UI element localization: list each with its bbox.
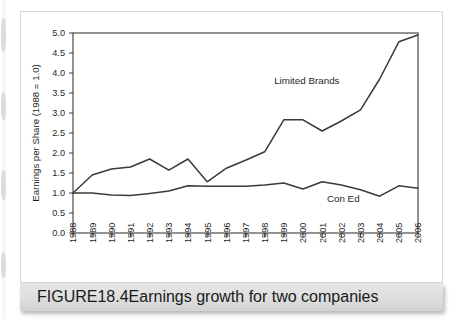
y-tick-label: 3.0 [52, 108, 65, 118]
page-scan-edge [0, 0, 16, 319]
chart-svg: 0.00.51.01.52.02.53.03.54.04.55.0 198819… [20, 11, 443, 283]
y-axis-tick-marks [69, 33, 73, 233]
y-axis-tick-labels: 0.00.51.01.52.02.53.03.54.04.55.0 [52, 28, 65, 238]
line-chart: 0.00.51.01.52.02.53.03.54.04.55.0 198819… [20, 11, 443, 283]
y-tick-label: 0.0 [52, 228, 65, 238]
series-lines [73, 35, 418, 196]
y-tick-label: 2.0 [52, 148, 65, 158]
figure-caption-bar: FIGURE 18.4 Earnings growth for two comp… [20, 283, 443, 311]
y-tick-label: 2.5 [52, 128, 65, 138]
caption-figure-number: 18.4 [97, 288, 128, 306]
y-tick-label: 0.5 [52, 208, 65, 218]
x-axis-tick-marks [73, 233, 418, 237]
scan-artifact [1, 170, 6, 200]
series-label: Limited Brands [274, 75, 339, 86]
scan-artifact [1, 18, 6, 52]
plot-frame [73, 33, 418, 233]
y-tick-label: 3.5 [52, 88, 65, 98]
series-label: Con Ed [327, 193, 360, 204]
scan-artifact [1, 252, 6, 278]
caption-figure-word: FIGURE [37, 288, 97, 306]
caption-text: Earnings growth for two companies [129, 288, 379, 306]
series-line [73, 182, 418, 196]
y-tick-label: 1.0 [52, 188, 65, 198]
plot-border [73, 33, 418, 233]
y-axis-title: Earnings per Share (1988 = 1.0) [30, 64, 41, 201]
scan-artifact [1, 92, 6, 120]
series-line [73, 35, 418, 193]
y-axis-title-text: Earnings per Share (1988 = 1.0) [30, 64, 41, 201]
y-tick-label: 1.5 [52, 168, 65, 178]
y-tick-label: 4.0 [52, 68, 65, 78]
y-tick-label: 5.0 [52, 28, 65, 38]
y-tick-label: 4.5 [52, 48, 65, 58]
